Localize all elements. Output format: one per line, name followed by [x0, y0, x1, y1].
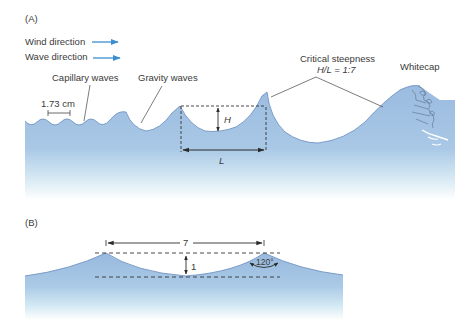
panel-b-label: (B) [25, 217, 38, 228]
water-panel-a [25, 86, 455, 201]
capillary-length-label: 1.73 cm [41, 98, 75, 109]
capillary-length-bar [48, 110, 70, 116]
water-panel-b [25, 253, 343, 320]
capillary-waves-label: Capillary waves [52, 72, 119, 83]
panel-a-label: (A) [25, 13, 38, 24]
legend-wave-label: Wave direction [25, 51, 87, 62]
whitecap-label: Whitecap [400, 61, 440, 72]
legend-wind-label: Wind direction [25, 36, 85, 47]
critical-leader-line [271, 77, 383, 107]
critical-steepness-label: Critical steepness [300, 53, 375, 64]
angle-label: 120° [256, 257, 274, 267]
height-label: H [224, 114, 231, 125]
capillary-leader-line [84, 85, 90, 121]
height-value-label: 1 [191, 261, 196, 272]
wave-diagram: (A) Wind direction Wave direction Capill… [0, 0, 476, 321]
legend: Wind direction Wave direction [25, 36, 120, 62]
length-value-label: 7 [183, 237, 188, 248]
gravity-waves-label: Gravity waves [138, 72, 198, 83]
critical-ratio-label: H/L = 1:7 [317, 64, 356, 75]
length-label: L [219, 155, 224, 166]
gravity-leader-line [141, 86, 162, 123]
